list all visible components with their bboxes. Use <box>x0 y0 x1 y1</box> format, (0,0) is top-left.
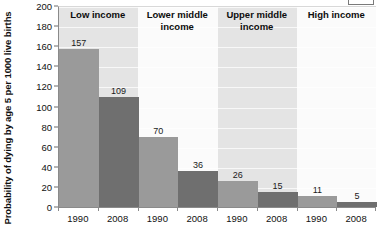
y-tick-label-160: 160 <box>36 41 52 52</box>
x-tick-label: 1990 <box>67 213 88 224</box>
y-tick-label-180: 180 <box>36 21 52 32</box>
bar <box>99 97 139 207</box>
bar <box>178 171 218 207</box>
y-tick-mark-60 <box>54 146 58 147</box>
x-tick-label: 1990 <box>306 213 327 224</box>
x-axis-ticks: 19902008199020081990200819902008 <box>58 207 376 235</box>
bar <box>218 181 258 207</box>
y-tick-mark-20 <box>54 186 58 187</box>
y-tick-label-200: 200 <box>36 1 52 12</box>
bar-value-label: 109 <box>99 86 139 96</box>
bar-value-label: 5 <box>337 191 377 201</box>
y-tick-mark-80 <box>54 126 58 127</box>
y-tick-mark-120 <box>54 86 58 87</box>
bar <box>258 192 298 207</box>
y-tick-mark-160 <box>54 46 58 47</box>
y-axis-title: Probability of dying by age 5 per 1000 l… <box>0 0 14 235</box>
bars-layer: 15710970362615115 <box>59 7 376 207</box>
bar <box>139 137 179 207</box>
bar-value-label: 11 <box>298 185 338 195</box>
y-tick-label-40: 40 <box>41 161 52 172</box>
x-tick-label: 1990 <box>226 213 247 224</box>
x-tick-mark <box>297 207 298 211</box>
x-tick-label: 2008 <box>266 213 287 224</box>
bar <box>298 196 338 207</box>
y-tick-mark-180 <box>54 26 58 27</box>
y-tick-label-20: 20 <box>41 181 52 192</box>
y-tick-label-0: 0 <box>47 202 52 213</box>
bar-value-label: 70 <box>139 126 179 136</box>
x-tick-mark <box>375 207 376 211</box>
bar-value-label: 15 <box>258 181 298 191</box>
x-tick-label: 2008 <box>346 213 367 224</box>
bar-value-label: 36 <box>178 160 218 170</box>
bar <box>59 49 99 207</box>
x-tick-mark <box>217 207 218 211</box>
x-tick-label: 1990 <box>147 213 168 224</box>
x-tick-label: 2008 <box>107 213 128 224</box>
y-tick-mark-200 <box>54 6 58 7</box>
x-tick-mark <box>177 207 178 211</box>
y-tick-mark-140 <box>54 66 58 67</box>
x-tick-mark <box>58 207 59 211</box>
y-tick-label-120: 120 <box>36 81 52 92</box>
x-tick-mark <box>336 207 337 211</box>
chart-figure: Probability of dying by age 5 per 1000 l… <box>0 0 379 235</box>
x-tick-mark <box>98 207 99 211</box>
bar-value-label: 157 <box>59 38 99 48</box>
y-axis-title-label: Probability of dying by age 5 per 1000 l… <box>2 11 13 224</box>
y-tick-mark-40 <box>54 166 58 167</box>
y-tick-mark-100 <box>54 106 58 107</box>
y-tick-label-140: 140 <box>36 61 52 72</box>
y-tick-label-60: 60 <box>41 141 52 152</box>
y-axis-ticks: 020406080100120140160180200 <box>14 6 58 207</box>
y-tick-label-80: 80 <box>41 121 52 132</box>
y-tick-label-100: 100 <box>36 101 52 112</box>
bar-value-label: 26 <box>218 170 258 180</box>
plot-area: 15710970362615115 <box>58 6 376 207</box>
corner-box <box>348 0 374 5</box>
x-tick-mark <box>257 207 258 211</box>
x-tick-label: 2008 <box>187 213 208 224</box>
x-tick-mark <box>138 207 139 211</box>
